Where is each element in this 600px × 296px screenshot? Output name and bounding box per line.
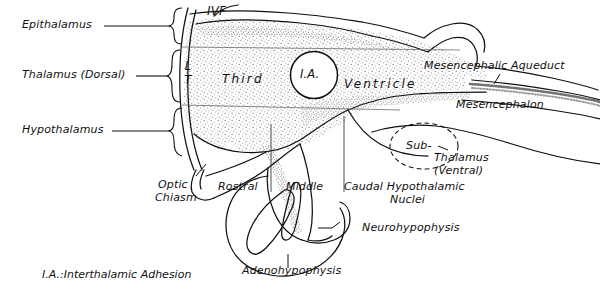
brace-hypothalamus (168, 108, 182, 156)
label-interthalamic-adhesion: I.A. (300, 68, 319, 81)
label-caudal-hypothalamic: Caudal Hypothalamic (344, 181, 465, 194)
label-lt-line2: T (181, 74, 195, 87)
brace-thalamus (166, 50, 180, 102)
label-optic-chiasm-line2: Chiasm (155, 192, 197, 205)
label-lt-line1: L (181, 60, 195, 73)
label-nuclei: Nuclei (390, 194, 425, 207)
leader-subthalamus (438, 146, 448, 150)
label-mesencephalon: Mesencephalon (456, 99, 544, 112)
label-neurohypophysis: Neurohypophysis (362, 222, 460, 235)
label-hypothalamus: Hypothalamus (22, 124, 104, 137)
left-brace-group (104, 8, 182, 156)
leader-neurohypophysis (318, 222, 340, 228)
third-ventricle-stipple (184, 18, 540, 234)
label-region-rostral: Rostral (218, 181, 258, 194)
label-subthalamus-ventral: (Ventral) (434, 165, 483, 178)
label-thalamus-dorsal: Thalamus (Dorsal) (22, 69, 126, 82)
legend-line-ia: I.A.:Interthalamic Adhesion (42, 268, 200, 282)
label-optic-chiasm-line1: Optic (158, 179, 188, 192)
label-epithalamus: Epithalamus (22, 19, 92, 32)
label-mesencephalic-aqueduct: Mesencephalic Aqueduct (424, 60, 565, 73)
label-adenohypophysis: Adenohypophysis (242, 265, 341, 278)
label-region-middle: Middle (286, 181, 323, 194)
label-third: Third (222, 73, 264, 86)
abbreviation-legend: I.A.:Interthalamic Adhesion IVF:Interven… (42, 240, 200, 296)
brace-epithalamus (168, 8, 182, 44)
label-ventricle: Ventricle (344, 78, 417, 91)
label-subthalamus-thalamus: Thalamus (434, 152, 489, 165)
label-subthalamus-sub: Sub- (406, 140, 432, 153)
label-ivf: IVF (207, 5, 226, 18)
